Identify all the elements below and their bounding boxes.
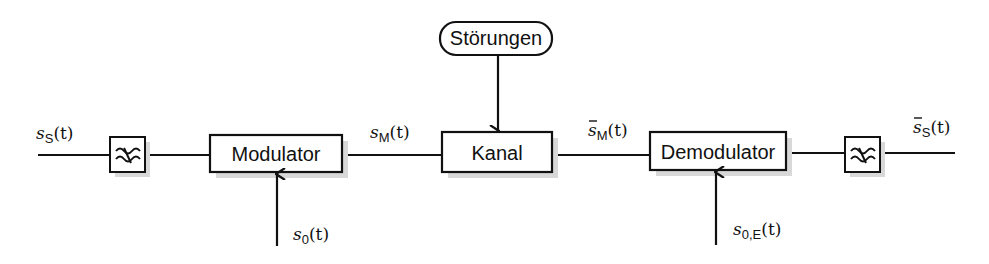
svg-text:sS(t): sS(t) [913,117,951,140]
modulator-label: Modulator [232,143,321,165]
signal-label-carrier-tx: s0(t) [293,224,329,247]
svg-text:sM(t): sM(t) [370,122,410,145]
signal-label-received: sM(t) [588,120,628,143]
svg-text:s0,E(t): s0,E(t) [733,219,781,242]
lowpass-filter-output [845,137,885,177]
channel-label: Kanal [471,142,522,164]
channel-block: Kanal [442,132,558,178]
lowpass-filter-input [110,137,150,177]
demodulator-label: Demodulator [661,141,776,163]
svg-text:sM(t): sM(t) [588,120,628,143]
signal-label-modulated: sM(t) [370,122,410,145]
disturbances-block: Störungen [440,22,552,55]
svg-text:s0(t): s0(t) [293,224,329,247]
signal-label-sink: sS(t) [913,117,951,140]
demodulator-block: Demodulator [650,132,792,176]
modulator-block: Modulator [210,135,348,178]
signal-label-source: sS(t) [36,123,74,146]
signal-label-carrier-rx: s0,E(t) [733,219,781,242]
svg-text:sS(t): sS(t) [36,123,74,146]
modulation-block-diagram: Modulator Störungen Kanal Demodulator sS… [0,0,989,264]
disturbances-label: Störungen [450,27,542,49]
